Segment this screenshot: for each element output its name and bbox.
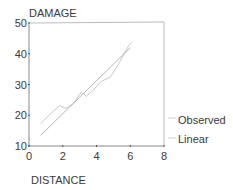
x-tick-label: 6 [127, 150, 133, 162]
data-series [41, 42, 132, 135]
legend-observed-label: Observed [178, 114, 226, 126]
top-border [29, 22, 164, 23]
chart: 102030405002468 DAMAGE DISTANCE Observed… [0, 0, 233, 190]
y-tick-label: 20 [15, 109, 27, 121]
legend-linear-label: Linear [178, 133, 209, 145]
series-linear-line [41, 48, 131, 136]
y-axis-label: DAMAGE [29, 7, 77, 19]
axis-ticks: 102030405002468 [15, 17, 167, 162]
x-tick-label: 2 [60, 150, 66, 162]
y-tick-label: 30 [15, 79, 27, 91]
x-tick-label: 0 [26, 150, 32, 162]
x-tick-label: 4 [93, 150, 99, 162]
x-axis-label: DISTANCE [31, 174, 86, 186]
y-tick-label: 50 [15, 17, 27, 29]
y-tick-label: 40 [15, 48, 27, 60]
legend: Observed Linear [168, 114, 226, 145]
series-observed-line [41, 42, 132, 124]
x-tick-label: 8 [161, 150, 167, 162]
